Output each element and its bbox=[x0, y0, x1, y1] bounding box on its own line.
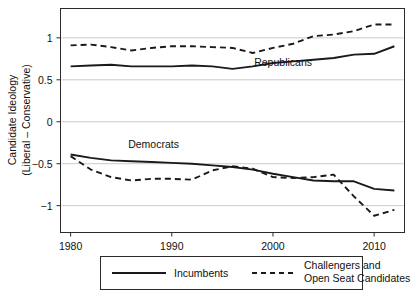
legend: Incumbents Challengers and Open Seat Can… bbox=[101, 257, 411, 290]
plot-annotation-label: Democrats bbox=[128, 138, 179, 150]
chart-figure: 10.50−0.5−1 1980199020002010 Republicans… bbox=[0, 0, 414, 295]
plot-annotation-label: Republicans bbox=[254, 56, 312, 68]
x-tick-label: 1990 bbox=[160, 240, 184, 252]
y-axis-ticks: 10.50−0.5−1 bbox=[32, 32, 61, 212]
x-axis-ticks: 1980199020002010 bbox=[59, 233, 386, 252]
y-axis-title-line1: Candidate Ideology bbox=[6, 74, 18, 165]
x-tick-label: 2010 bbox=[362, 240, 386, 252]
x-tick-label: 1980 bbox=[59, 240, 83, 252]
y-tick-label: 0.5 bbox=[38, 74, 53, 86]
y-tick-label: −1 bbox=[41, 200, 53, 212]
x-tick-label: 2000 bbox=[261, 240, 285, 252]
y-axis-title: Candidate Ideology (Liberal – Conservati… bbox=[6, 64, 32, 175]
y-axis-title-line2: (Liberal – Conservative) bbox=[20, 64, 32, 175]
legend-label-challengers-line2: Open Seat Candidates bbox=[304, 272, 410, 284]
legend-label-challengers-line1: Challengers and bbox=[304, 259, 381, 271]
plot-frame bbox=[61, 9, 405, 233]
legend-label-incumbents: Incumbents bbox=[174, 267, 228, 279]
y-tick-label: 1 bbox=[47, 32, 53, 44]
ideology-line-chart: 10.50−0.5−1 1980199020002010 Republicans… bbox=[0, 0, 414, 295]
y-tick-label: −0.5 bbox=[32, 158, 53, 170]
y-tick-label: 0 bbox=[47, 116, 53, 128]
